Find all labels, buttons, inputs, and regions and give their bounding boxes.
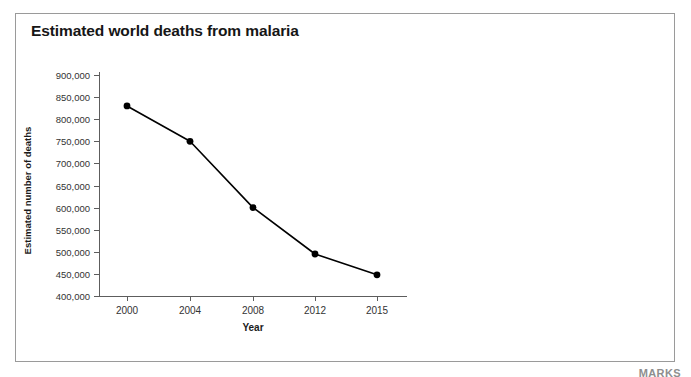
data-point-marker: 2008: 600,000: [250, 204, 257, 211]
series-markers: 2000: 830,0002004: 750,0002008: 600,0002…: [124, 103, 381, 279]
data-point-marker: 2000: 830,000: [124, 103, 131, 110]
series-polyline: [127, 106, 377, 275]
line-chart-plot-area: Estimated number of deaths Year 900,0008…: [0, 0, 691, 377]
data-point-marker: 2015: 448,000: [374, 271, 381, 278]
watermark-text: MARKS: [639, 367, 681, 377]
data-point-marker: 2004: 750,000: [187, 138, 194, 145]
data-point-marker: 2012: 495,000: [312, 251, 319, 258]
series-line-malaria-deaths: 2000: 830,0002004: 750,0002008: 600,0002…: [0, 0, 691, 377]
